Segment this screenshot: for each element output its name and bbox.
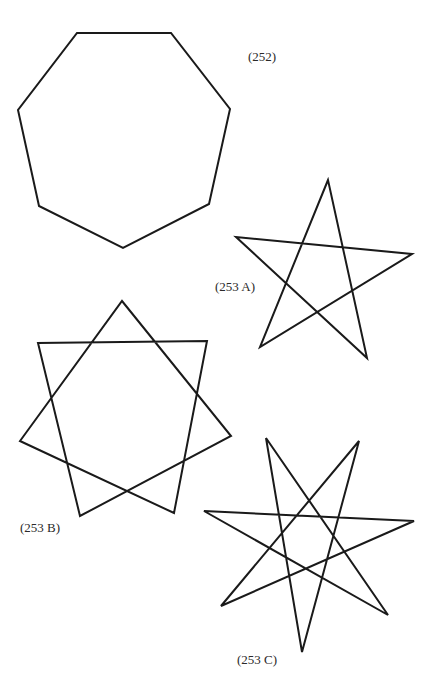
label-252: (252) xyxy=(248,50,276,63)
heptagram-253c xyxy=(204,438,414,652)
label-253a: (253 A) xyxy=(215,280,255,293)
label-253b: (253 B) xyxy=(20,521,60,534)
label-253c: (253 C) xyxy=(237,653,277,666)
heptagon-252 xyxy=(18,33,230,248)
pentagram-253a xyxy=(236,180,412,358)
figure-canvas xyxy=(0,0,442,690)
heptagram-253b xyxy=(20,301,231,516)
